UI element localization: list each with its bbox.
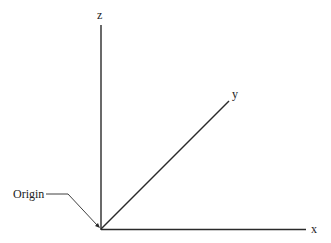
origin-leader-line xyxy=(46,194,97,225)
axes-diagram xyxy=(0,0,331,243)
x-axis-label: x xyxy=(311,223,317,235)
y-axis xyxy=(101,101,229,229)
y-axis-label: y xyxy=(232,88,238,100)
z-axis-label: z xyxy=(97,9,102,21)
origin-label: Origin xyxy=(13,188,44,200)
